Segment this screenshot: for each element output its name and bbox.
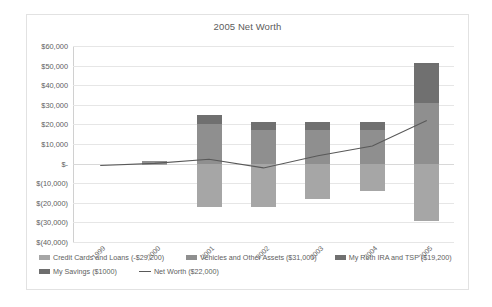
legend-item[interactable]: Vehicles and Other Assets ($31,000) <box>186 253 317 262</box>
y-axis-tick: $30,000 <box>41 100 68 109</box>
legend-swatch-icon <box>335 255 346 260</box>
chart-legend: Credit Cards and Loans (-$29,200)Vehicle… <box>39 253 457 281</box>
net-worth-line-series <box>73 46 454 242</box>
legend-item[interactable]: My Savings ($1000) <box>39 267 117 276</box>
legend-label: My Savings ($1000) <box>53 267 117 276</box>
chart-title: 2005 Net Worth <box>27 21 468 32</box>
plot-area: $60,000$50,000$40,000$30,000$20,000$10,0… <box>73 46 454 242</box>
legend-swatch-icon <box>39 255 50 260</box>
y-axis-tick: $10,000 <box>41 140 68 149</box>
y-axis-tick: $(40,000) <box>36 238 68 247</box>
legend-row: Credit Cards and Loans (-$29,200)Vehicle… <box>39 253 457 262</box>
legend-item[interactable]: Net Worth ($22,000) <box>139 267 219 276</box>
legend-label: Vehicles and Other Assets ($31,000) <box>200 253 317 262</box>
legend-label: Net Worth ($22,000) <box>154 267 219 276</box>
gridline <box>73 242 454 243</box>
y-axis-tick: $(20,000) <box>36 198 68 207</box>
legend-label: My Roth IRA and TSP ($19,200) <box>349 253 452 262</box>
legend-item[interactable]: Credit Cards and Loans (-$29,200) <box>39 253 164 262</box>
y-axis-tick: $60,000 <box>41 42 68 51</box>
y-axis-tick: $20,000 <box>41 120 68 129</box>
net-worth-polyline <box>100 120 427 167</box>
legend-label: Credit Cards and Loans (-$29,200) <box>53 253 164 262</box>
chart-container: 2005 Net Worth $60,000$50,000$40,000$30,… <box>26 14 469 290</box>
legend-line-icon <box>139 271 151 272</box>
legend-item[interactable]: My Roth IRA and TSP ($19,200) <box>335 253 452 262</box>
legend-swatch-icon <box>39 269 50 274</box>
y-axis-tick: $50,000 <box>41 61 68 70</box>
legend-swatch-icon <box>186 255 197 260</box>
y-axis-tick: $(30,000) <box>36 218 68 227</box>
y-axis-tick: $(10,000) <box>36 179 68 188</box>
legend-row: My Savings ($1000)Net Worth ($22,000) <box>39 267 457 276</box>
y-axis-tick: $40,000 <box>41 81 68 90</box>
y-axis-tick: $- <box>61 159 68 168</box>
